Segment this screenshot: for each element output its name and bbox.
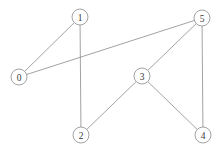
graph-node-label-0: 0 [17, 73, 22, 83]
graph-edge-2-3 [87, 82, 136, 130]
graph-node-label-4: 4 [201, 131, 206, 141]
graph-node-4[interactable]: 4 [195, 127, 211, 143]
graph-node-label-5: 5 [200, 14, 205, 24]
graph-node-label-2: 2 [79, 131, 84, 141]
graph-node-1[interactable]: 1 [72, 9, 88, 25]
graph-node-5[interactable]: 5 [194, 10, 210, 26]
graph-edge-0-5 [27, 20, 195, 74]
graph-figure: 012345 [0, 0, 221, 152]
graph-node-3[interactable]: 3 [134, 68, 150, 84]
node-layer: 012345 [11, 9, 211, 143]
edge-layer [25, 20, 203, 129]
graph-node-2[interactable]: 2 [73, 127, 89, 143]
graph-node-label-3: 3 [140, 72, 145, 82]
graph-edge-0-1 [25, 23, 75, 72]
graph-canvas: 012345 [0, 0, 221, 152]
graph-node-0[interactable]: 0 [11, 69, 27, 85]
graph-edge-1-2 [80, 25, 81, 127]
graph-edge-3-5 [148, 24, 196, 71]
graph-edge-4-5 [202, 26, 203, 127]
graph-node-label-1: 1 [78, 13, 83, 23]
graph-edge-3-4 [148, 82, 197, 130]
